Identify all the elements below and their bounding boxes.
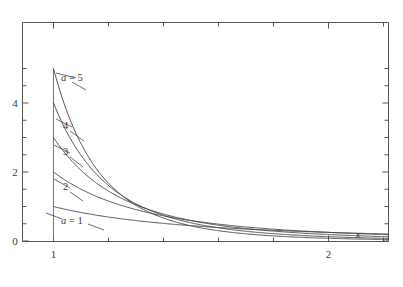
curve-annotations: a = 5 4 3 2 a = 1 xyxy=(61,72,83,226)
x-tick-label-2: 2 xyxy=(326,248,332,260)
x-tick-label-1: 1 xyxy=(51,248,57,260)
curve-label-a5-rest: = 5 xyxy=(66,72,82,83)
curve-label-a1: a = 1 xyxy=(61,215,83,226)
curve-label-a2: 2 xyxy=(63,181,68,192)
y-axis-ticks-right xyxy=(383,69,389,242)
density-curve xyxy=(54,69,389,240)
density-curves xyxy=(54,69,389,240)
x-axis-ticks-top xyxy=(54,23,384,29)
curve-label-a4: 4 xyxy=(63,120,69,131)
curve-label-a5: a = 5 xyxy=(61,72,83,83)
y-tick-label-2: 2 xyxy=(12,166,18,178)
y-axis-ticks-left xyxy=(23,69,29,242)
density-curve xyxy=(54,103,389,238)
curve-label-a1-rest: = 1 xyxy=(66,215,82,226)
plot-frame xyxy=(23,23,389,242)
figure-container: 1 2 0 2 4 x a = 5 4 3 2 a = 1 xyxy=(0,0,403,287)
density-curve xyxy=(54,138,389,237)
axis-labels: x xyxy=(355,228,361,240)
axis-ticks xyxy=(23,23,389,242)
y-tick-label-0: 0 xyxy=(12,235,18,247)
y-tick-label-4: 4 xyxy=(12,97,18,109)
x-axis-label: x xyxy=(355,228,361,240)
pareto-density-chart: 1 2 0 2 4 x a = 5 4 3 2 a = 1 xyxy=(0,0,403,287)
curve-label-a3: 3 xyxy=(63,146,68,157)
